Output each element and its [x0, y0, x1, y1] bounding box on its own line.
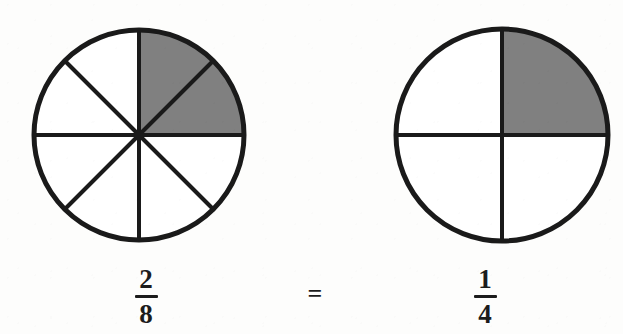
fraction-left-bar: [135, 295, 158, 298]
fraction-left-denominator: 8: [139, 301, 153, 327]
fraction-figure-stage: 2 8 = 1 4: [0, 0, 623, 334]
right-pie-group: [396, 29, 608, 241]
equals-sign: =: [290, 281, 340, 307]
fraction-right-denominator: 4: [478, 301, 492, 327]
fraction-one-quarter: 1 4: [455, 266, 515, 327]
fraction-right-numerator: 1: [478, 266, 492, 292]
left-pie-group: [34, 30, 244, 240]
fraction-left-numerator: 2: [139, 266, 153, 292]
fraction-right-bar: [474, 295, 497, 298]
fraction-two-eighths: 2 8: [116, 266, 176, 327]
